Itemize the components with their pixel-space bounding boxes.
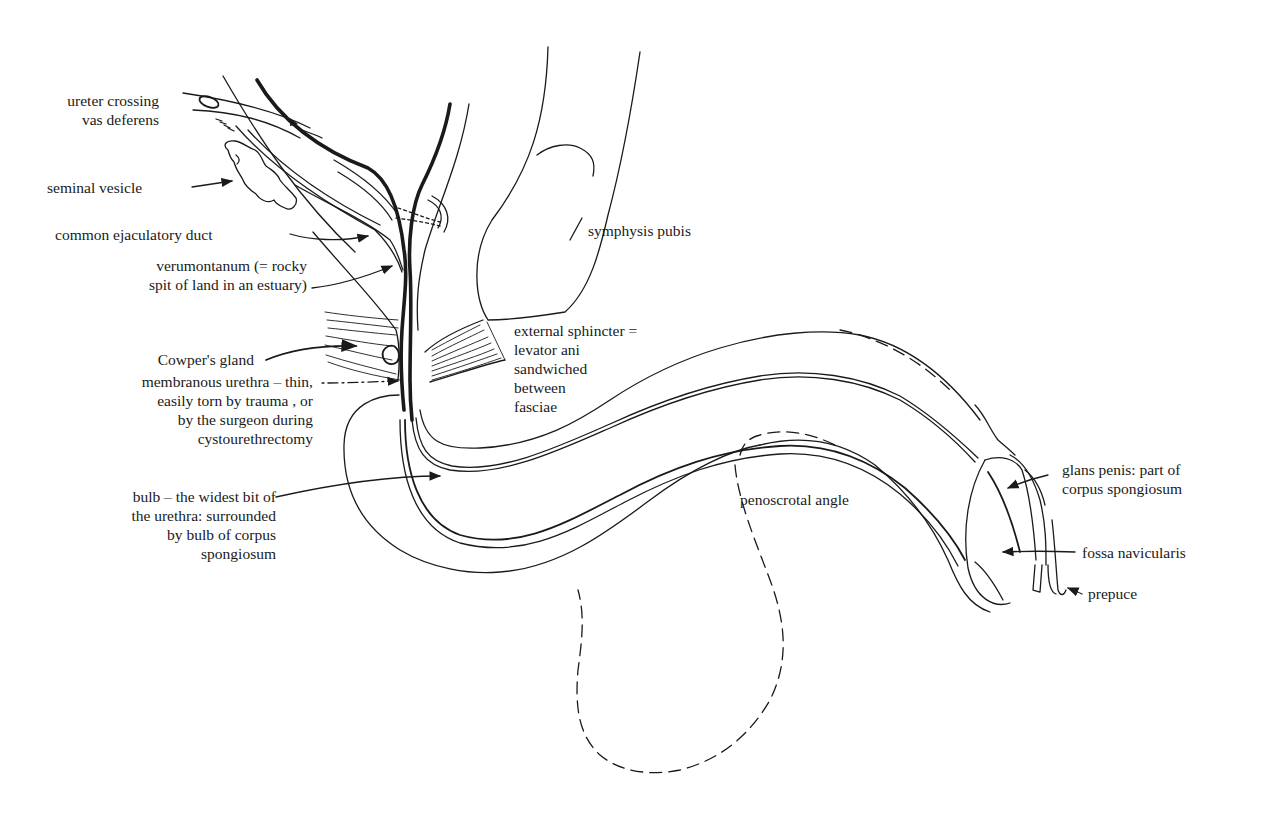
membranous-urethra-arrow xyxy=(322,381,398,383)
label-penoscrotal-angle: penoscrotal angle xyxy=(740,490,849,509)
seminal-vesicle-arrow xyxy=(192,181,232,187)
glans-arrow xyxy=(1008,475,1048,488)
label-glans-penis: glans penis: part of corpus spongiosum xyxy=(1062,460,1182,498)
label-symphysis-pubis: symphysis pubis xyxy=(588,221,691,240)
label-prepuce: prepuce xyxy=(1088,584,1137,603)
symphysis-leader xyxy=(570,218,582,240)
prepuce-arrow xyxy=(1068,588,1082,594)
label-ureter-crossing: ureter crossing vas deferens xyxy=(67,91,159,129)
cowpers-gland-arrow xyxy=(266,346,356,360)
label-bulb: bulb – the widest bit of the urethra: su… xyxy=(131,487,276,563)
symphysis-pubis-shape xyxy=(477,47,640,320)
ejaculatory-duct-arrow xyxy=(290,234,368,240)
external-sphincter-hatching xyxy=(425,320,505,382)
label-membranous-urethra: membranous urethra – thin, easily torn b… xyxy=(142,372,313,448)
label-fossa-navicularis: fossa navicularis xyxy=(1082,543,1186,562)
label-external-sphincter: external sphincter = levator ani sandwic… xyxy=(514,321,637,416)
scrotum-outline xyxy=(577,432,835,773)
label-cowpers-gland: Cowper's gland xyxy=(158,350,254,369)
glans-and-prepuce xyxy=(966,455,1066,604)
fossa-navicularis-arrow xyxy=(1003,551,1075,552)
label-seminal-vesicle: seminal vesicle xyxy=(47,178,142,197)
label-verumontanum: verumontanum (= rocky spit of land in an… xyxy=(149,256,307,294)
label-common-ejaculatory-duct: common ejaculatory duct xyxy=(55,225,213,244)
